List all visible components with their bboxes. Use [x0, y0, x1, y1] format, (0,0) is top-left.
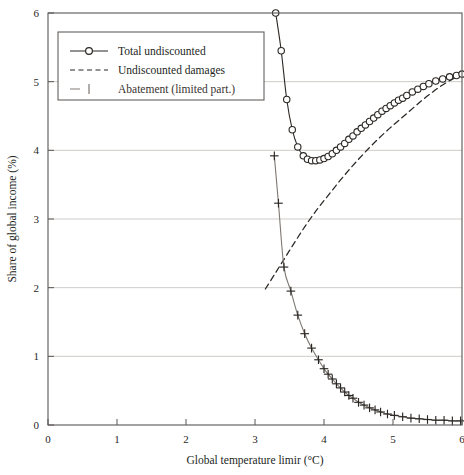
y-tick-label: 3	[34, 213, 40, 225]
data-point-marker	[289, 127, 295, 133]
y-tick-label: 1	[34, 350, 40, 362]
legend-label-total-undiscounted: Total undiscounted	[118, 45, 206, 57]
y-tick-label: 0	[34, 419, 40, 431]
x-axis-label: Global temperature limir (°C)	[186, 454, 323, 467]
x-tick-label: 4	[321, 433, 327, 445]
data-point-marker	[426, 81, 432, 87]
x-tick-label: 3	[252, 433, 258, 445]
y-tick-label: 5	[34, 76, 40, 88]
x-tick-label: 6	[459, 433, 464, 445]
data-point-marker	[433, 78, 439, 84]
y-tick-label: 6	[34, 7, 40, 19]
data-point-marker	[284, 96, 290, 102]
x-tick-label: 0	[45, 433, 51, 445]
legend-label-abatement: Abatement (limited part.)	[118, 83, 235, 96]
x-tick-label: 2	[183, 433, 189, 445]
y-axis-label: Share of global income (%)	[6, 155, 19, 282]
data-point-marker	[446, 74, 452, 80]
data-point-marker	[459, 71, 464, 77]
chart-canvas: 0123456 0123456 Global temperature limir…	[0, 0, 464, 475]
data-point-marker	[439, 76, 445, 82]
data-point-marker	[278, 48, 284, 54]
y-tick-label: 4	[34, 144, 40, 156]
legend-label-undiscounted-damages: Undiscounted damages	[118, 64, 226, 77]
y-tick-label: 2	[34, 282, 40, 294]
x-tick-label: 1	[114, 433, 120, 445]
chart-figure: 0123456 0123456 Global temperature limir…	[0, 0, 464, 475]
x-tick-label: 5	[390, 433, 396, 445]
chart-legend: Total undiscounted Undiscounted damages …	[58, 32, 264, 100]
data-point-marker	[295, 144, 301, 150]
circle-open-marker-icon	[86, 48, 93, 55]
